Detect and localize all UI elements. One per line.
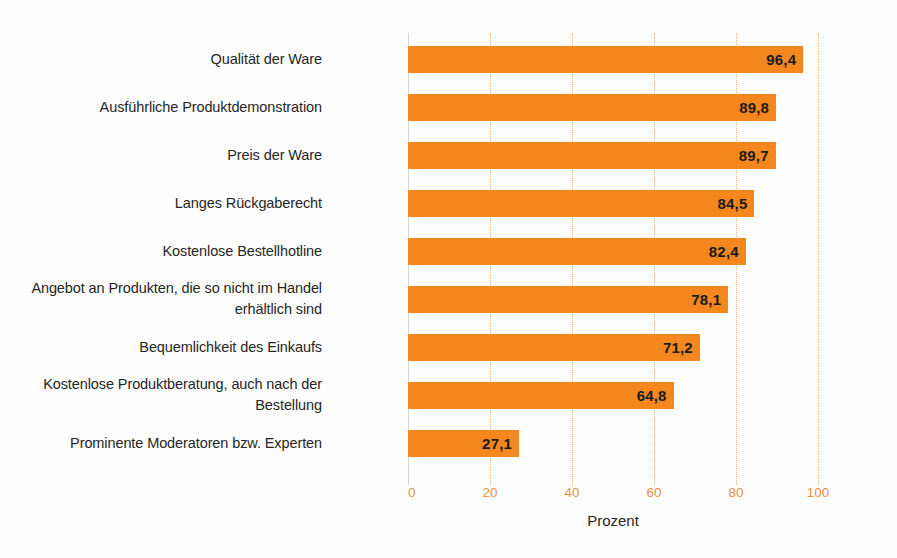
bar-value-label: 89,7 — [739, 147, 776, 164]
bar-chart: Qualität der Ware96,4Ausführliche Produk… — [0, 0, 897, 558]
bar: 27,1 — [408, 430, 519, 457]
chart-row: Angebot an Produkten, die so nicht im Ha… — [0, 275, 897, 323]
bar-value-label: 96,4 — [766, 51, 803, 68]
x-tick-label-80: 80 — [728, 485, 743, 500]
x-axis-ticks: 020406080100 — [408, 485, 818, 509]
bar: 96,4 — [408, 46, 803, 73]
x-tick-label-100: 100 — [807, 485, 830, 500]
bar-value-label: 27,1 — [482, 435, 519, 452]
bar-value-label: 64,8 — [637, 387, 674, 404]
bar-container: 27,1 — [408, 430, 519, 457]
chart-row: Prominente Moderatoren bzw. Experten27,1 — [0, 419, 897, 467]
bar-value-label: 82,4 — [709, 243, 746, 260]
chart-row: Ausführliche Produktdemonstration89,8 — [0, 83, 897, 131]
x-tick-label-0: 0 — [408, 485, 416, 500]
category-label: Ausführliche Produktdemonstration — [0, 97, 322, 118]
bar: 64,8 — [408, 382, 674, 409]
bar-container: 84,5 — [408, 190, 754, 217]
bar-container: 64,8 — [408, 382, 674, 409]
category-label: Bequemlichkeit des Einkaufs — [0, 337, 322, 358]
category-label: Preis der Ware — [0, 145, 322, 166]
category-label: Qualität der Ware — [0, 49, 322, 70]
bar: 84,5 — [408, 190, 754, 217]
bar: 78,1 — [408, 286, 728, 313]
x-tick-label-60: 60 — [646, 485, 661, 500]
bar-value-label: 84,5 — [717, 195, 754, 212]
bar-rows: Qualität der Ware96,4Ausführliche Produk… — [0, 33, 897, 485]
bar-container: 78,1 — [408, 286, 728, 313]
bar-container: 89,8 — [408, 94, 776, 121]
chart-row: Preis der Ware89,7 — [0, 131, 897, 179]
category-label: Kostenlose Bestellhotline — [0, 241, 322, 262]
bar: 71,2 — [408, 334, 700, 361]
bar-container: 89,7 — [408, 142, 776, 169]
x-axis-title: Prozent — [408, 512, 818, 529]
category-label: Kostenlose Produktberatung, auch nach de… — [0, 374, 322, 416]
chart-row: Bequemlichkeit des Einkaufs71,2 — [0, 323, 897, 371]
category-label: Langes Rückgaberecht — [0, 193, 322, 214]
chart-row: Qualität der Ware96,4 — [0, 35, 897, 83]
category-label: Angebot an Produkten, die so nicht im Ha… — [0, 278, 322, 320]
category-label: Prominente Moderatoren bzw. Experten — [0, 433, 322, 454]
bar: 89,8 — [408, 94, 776, 121]
x-tick-label-20: 20 — [482, 485, 497, 500]
bar-value-label: 78,1 — [691, 291, 728, 308]
bar: 89,7 — [408, 142, 776, 169]
bar-value-label: 89,8 — [739, 99, 776, 116]
bar-container: 96,4 — [408, 46, 803, 73]
chart-row: Kostenlose Bestellhotline82,4 — [0, 227, 897, 275]
x-tick-label-40: 40 — [564, 485, 579, 500]
chart-row: Langes Rückgaberecht84,5 — [0, 179, 897, 227]
bar-container: 82,4 — [408, 238, 746, 265]
bar-value-label: 71,2 — [663, 339, 700, 356]
bar: 82,4 — [408, 238, 746, 265]
bar-container: 71,2 — [408, 334, 700, 361]
chart-row: Kostenlose Produktberatung, auch nach de… — [0, 371, 897, 419]
